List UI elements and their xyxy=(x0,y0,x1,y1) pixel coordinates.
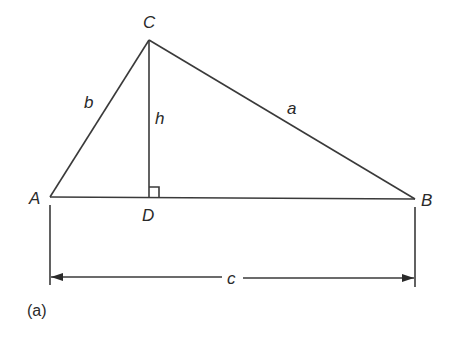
side-c-base xyxy=(50,197,415,199)
vertex-label-d: D xyxy=(142,206,154,225)
right-angle-marker xyxy=(149,187,159,197)
figure-caption: (a) xyxy=(27,302,47,319)
side-label-b: b xyxy=(84,93,93,112)
triangle-diagram: C A B D b h a c (a) xyxy=(0,0,457,349)
side-label-c: c xyxy=(227,269,236,288)
side-a xyxy=(149,40,415,199)
side-label-h: h xyxy=(155,109,164,128)
vertex-label-a: A xyxy=(28,189,40,208)
side-b xyxy=(50,40,149,197)
vertex-label-c: C xyxy=(143,13,156,32)
vertex-label-b: B xyxy=(421,191,432,210)
side-label-a: a xyxy=(287,99,296,118)
